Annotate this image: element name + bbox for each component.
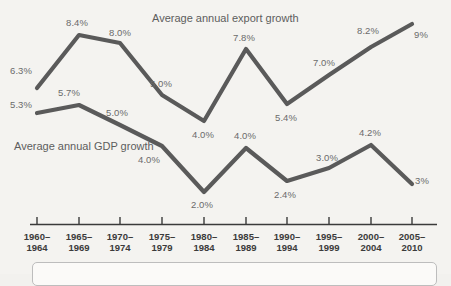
data-label-gdp-1995-1999: 3.0% — [316, 153, 338, 163]
x-axis-label-1960-1964-bottom: 1964 — [24, 242, 50, 253]
data-label-export-1995-1999: 7.0% — [313, 58, 335, 68]
x-axis-label-1985-1989: 1985– 1989 — [233, 231, 259, 253]
data-label-gdp-2005-2010: 3% — [415, 176, 429, 186]
data-label-export-1960-1964: 6.3% — [10, 66, 32, 76]
x-axis-label-1975-1979-bottom: 1979 — [149, 242, 175, 253]
x-axis-label-1995-1999-top: 1995– — [316, 231, 342, 242]
x-axis-label-1985-1989-bottom: 1989 — [233, 242, 259, 253]
x-axis-label-1960-1964: 1960– 1964 — [24, 231, 50, 253]
x-axis-label-1995-1999-bottom: 1999 — [316, 242, 342, 253]
x-axis-label-1970-1974: 1970– 1974 — [107, 231, 133, 253]
x-axis-label-1965-1969: 1965– 1969 — [66, 231, 92, 253]
data-label-gdp-1990-1994: 2.4% — [274, 190, 296, 200]
x-axis-label-1975-1979: 1975– 1979 — [149, 231, 175, 253]
x-axis-label-1960-1964-top: 1960– — [24, 231, 50, 242]
x-axis-label-1965-1969-top: 1965– — [66, 231, 92, 242]
x-axis-label-1980-1984-top: 1980– — [191, 231, 217, 242]
data-label-gdp-1975-1979: 4.0% — [138, 155, 160, 165]
x-axis-label-2005-2010-top: 2005– — [399, 231, 425, 242]
data-label-gdp-1965-1969: 5.7% — [58, 88, 80, 98]
x-axis-label-2000-2004-bottom: 2004 — [358, 242, 384, 253]
x-axis-label-1970-1974-bottom: 1974 — [107, 242, 133, 253]
x-axis-label-2005-2010-bottom: 2010 — [399, 242, 425, 253]
x-axis-ticks — [37, 217, 412, 224]
series-title-gdp-growth: Average annual GDP growth — [14, 140, 154, 152]
data-label-gdp-2000-2004: 4.2% — [359, 128, 381, 138]
x-axis-label-1980-1984-bottom: 1984 — [191, 242, 217, 253]
x-axis-label-1995-1999: 1995– 1999 — [316, 231, 342, 253]
data-label-gdp-1970-1974: 5.0% — [106, 108, 128, 118]
x-axis-label-1985-1989-top: 1985– — [233, 231, 259, 242]
x-axis-label-1990-1994-top: 1990– — [274, 231, 300, 242]
x-axis-label-1965-1969-bottom: 1969 — [66, 242, 92, 253]
data-label-export-1980-1984: 4.0% — [192, 130, 214, 140]
data-label-export-1975-1979: 5.0% — [150, 79, 172, 89]
x-axis-label-1990-1994: 1990– 1994 — [274, 231, 300, 253]
series-title-export-growth: Average annual export growth — [152, 12, 299, 24]
x-axis-label-2005-2010: 2005– 2010 — [399, 231, 425, 253]
series-line-export-growth — [37, 24, 412, 121]
x-axis-label-1970-1974-top: 1970– — [107, 231, 133, 242]
data-label-export-1965-1969: 8.4% — [66, 18, 88, 28]
data-label-export-1990-1994: 5.4% — [275, 113, 297, 123]
data-label-export-2005-2010: 9% — [414, 30, 428, 40]
x-axis-label-1990-1994-bottom: 1994 — [274, 242, 300, 253]
x-axis-label-2000-2004-top: 2000– — [358, 231, 384, 242]
x-axis-label-1980-1984: 1980– 1984 — [191, 231, 217, 253]
data-label-export-2000-2004: 8.2% — [357, 26, 379, 36]
caption-box — [32, 262, 437, 286]
data-label-gdp-1980-1984: 2.0% — [191, 200, 213, 210]
data-label-export-1985-1989: 7.8% — [233, 33, 255, 43]
data-label-gdp-1985-1989: 4.0% — [234, 131, 256, 141]
data-label-export-1970-1974: 8.0% — [109, 28, 131, 38]
data-label-gdp-1960-1964: 5.3% — [10, 100, 32, 110]
x-axis-label-1975-1979-top: 1975– — [149, 231, 175, 242]
x-axis-label-2000-2004: 2000– 2004 — [358, 231, 384, 253]
